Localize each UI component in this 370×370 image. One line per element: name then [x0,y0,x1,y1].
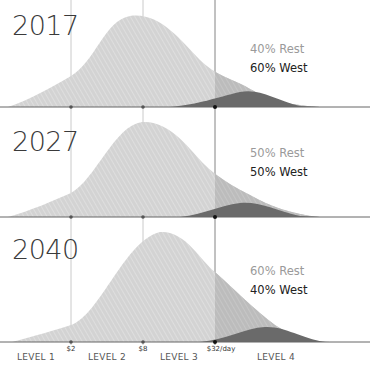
tick-2-dollars: $2 [67,345,76,353]
income-distribution-chart [0,0,370,370]
rest-share-2040: 60% Rest [250,264,304,278]
year-label-2027: 2027 [12,126,79,157]
rest-share-2027: 50% Rest [250,146,304,160]
level-4-label: LEVEL 4 [257,352,295,362]
level-2-label: LEVEL 2 [88,352,126,362]
level-1-label: LEVEL 1 [17,352,55,362]
tick-8-dollars: $8 [139,345,148,353]
rest-share-2017: 40% Rest [250,42,304,56]
tick-32-dollars-per-day: $32/day [207,345,236,353]
west-share-2017: 60% West [250,61,308,75]
year-label-2017: 2017 [12,10,79,41]
year-label-2040: 2040 [12,234,79,265]
level-3-label: LEVEL 3 [160,352,198,362]
west-share-2027: 50% West [250,165,308,179]
west-share-2040: 40% West [250,283,308,297]
